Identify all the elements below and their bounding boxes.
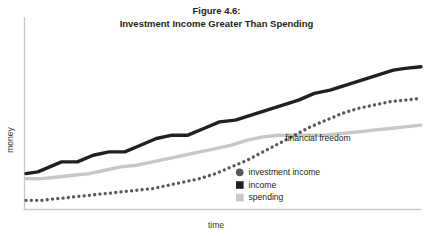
y-axis-label: money (5, 126, 15, 152)
legend-label-investment-income: investment income (249, 167, 321, 177)
annotation-financial-freedom: financial freedom (285, 133, 350, 143)
legend-marker-investment-income (236, 169, 244, 177)
figure-title-line-1: Figure 4.6: (192, 5, 240, 16)
annotation-layer: financial freedom (285, 133, 350, 143)
chart-canvas: Figure 4.6: Investment Income Greater Th… (0, 0, 433, 236)
series-line-income (26, 67, 421, 174)
figure-title-line-2: Investment Income Greater Than Spending (120, 18, 314, 29)
legend-label-income: income (249, 180, 277, 190)
series-line-investment-income (26, 98, 421, 200)
chart-legend: investment incomeincomespending (236, 167, 320, 202)
legend-marker-income (236, 181, 244, 189)
x-axis-label: time (208, 220, 224, 230)
figure-container: Figure 4.6: Investment Income Greater Th… (0, 0, 433, 236)
plot-series-layer (26, 67, 421, 201)
legend-marker-spending (236, 194, 244, 202)
legend-label-spending: spending (249, 192, 284, 202)
